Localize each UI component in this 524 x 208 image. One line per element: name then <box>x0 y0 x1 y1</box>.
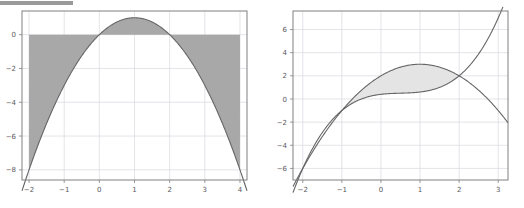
plot-background <box>293 11 508 180</box>
chart-left-svg: −2−1012340−2−4−6−8 <box>0 0 262 208</box>
x-tick-label: 4 <box>238 186 243 194</box>
y-tick-label: 4 <box>283 49 288 57</box>
x-tick-label: 2 <box>457 186 461 194</box>
x-tick-label: −2 <box>24 186 34 194</box>
y-tick-label: −2 <box>277 119 287 127</box>
y-tick-label: −8 <box>6 166 16 174</box>
y-tick-label: −2 <box>6 65 16 73</box>
x-tick-label: −1 <box>337 186 347 194</box>
y-tick-label: 2 <box>283 72 287 80</box>
y-tick-label: 0 <box>12 31 16 39</box>
x-tick-label: −2 <box>298 186 308 194</box>
chart-panel-left: −2−1012340−2−4−6−8 <box>0 0 262 208</box>
y-tick-label: −4 <box>277 142 288 150</box>
chart-panel-right: −2−101236420−2−4−6 <box>262 0 524 208</box>
y-tick-label: −4 <box>6 99 17 107</box>
figure-root: −2−1012340−2−4−6−8 −2−101236420−2−4−6 <box>0 0 524 208</box>
y-tick-label: 0 <box>283 96 287 104</box>
y-tick-label: 6 <box>283 26 288 34</box>
x-tick-label: 3 <box>496 186 500 194</box>
x-tick-label: 1 <box>132 186 136 194</box>
y-tick-label: −6 <box>277 165 288 173</box>
chart-right-svg: −2−101236420−2−4−6 <box>262 0 524 208</box>
x-tick-label: 0 <box>379 186 383 194</box>
x-tick-label: 2 <box>167 186 171 194</box>
x-tick-label: 0 <box>97 186 101 194</box>
x-tick-label: 1 <box>418 186 422 194</box>
y-tick-label: −6 <box>6 133 17 141</box>
x-tick-label: −1 <box>59 186 69 194</box>
x-tick-label: 3 <box>203 186 207 194</box>
